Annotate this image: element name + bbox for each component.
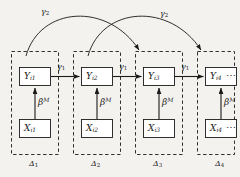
- node-label-Y3: Yi3: [148, 72, 160, 81]
- node-label-Y4: Yi4: [210, 72, 222, 81]
- plate-label-2: Δ2: [91, 160, 100, 169]
- edge-curve-Y1-Y3: [26, 16, 139, 56]
- continuation-ellipsis-x-row: ⋯: [226, 123, 237, 133]
- edge-label-gamma-1-b: γ1: [119, 63, 127, 72]
- edge-label-gamma-1-c: γ1: [181, 63, 189, 72]
- edge-label-beta-M-3: βM: [162, 97, 173, 107]
- edge-curve-Y2-Y4: [88, 16, 201, 56]
- edge-label-gamma-2-a: γ2: [41, 8, 49, 17]
- node-label-X3: Xi3: [148, 124, 160, 133]
- node-label-Y1: Yi1: [24, 72, 36, 81]
- plate-label-4: Δ4: [215, 160, 224, 169]
- plate-label-1: Δ1: [29, 160, 38, 169]
- node-label-X2: Xi2: [86, 124, 98, 133]
- continuation-ellipsis-y-row: ⋯: [226, 71, 237, 81]
- edge-label-beta-M-2: βM: [100, 97, 111, 107]
- node-label-Y2: Yi2: [86, 72, 98, 81]
- edge-label-gamma-1-a: γ1: [57, 63, 65, 72]
- edge-label-gamma-2-b: γ2: [160, 10, 168, 19]
- edge-label-beta-M-4: βM: [224, 97, 235, 107]
- node-label-X1: Xi1: [24, 124, 36, 133]
- edge-label-beta-M-1: βM: [38, 97, 49, 107]
- plate-label-3: Δ3: [153, 160, 162, 169]
- node-label-X4: Xi4: [210, 124, 222, 133]
- model-diagram-canvas: [0, 0, 240, 177]
